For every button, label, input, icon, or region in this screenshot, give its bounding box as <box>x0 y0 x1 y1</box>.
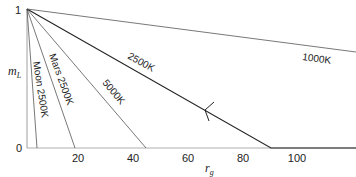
x-tick-40: 40 <box>127 152 139 164</box>
x-axis-title: rg <box>205 161 214 177</box>
label-1000k: 1000K <box>302 51 332 66</box>
y-axis-title: mL <box>8 64 22 80</box>
chart: 1 0 mL 20 40 60 80 100 rg Moon 2500K Mar… <box>0 0 356 177</box>
label-2500k: 2500K <box>126 50 157 74</box>
x-tick-80: 80 <box>237 152 249 164</box>
line-1000k <box>27 9 356 52</box>
label-5000k: 5000K <box>100 77 127 106</box>
x-tick-60: 60 <box>182 152 194 164</box>
y-tick-1: 1 <box>15 4 21 16</box>
x-tick-20: 20 <box>72 152 84 164</box>
x-tick-100: 100 <box>288 152 306 164</box>
line-2500k <box>27 9 356 148</box>
y-tick-0: 0 <box>16 142 22 154</box>
